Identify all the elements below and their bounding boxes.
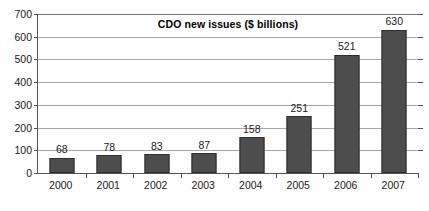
x-axis-tick [371, 173, 372, 178]
bar[interactable] [334, 55, 359, 173]
y-axis-label: 400 [14, 77, 32, 88]
x-axis-tick-end [418, 173, 419, 178]
plot-area: CDO new issues ($ billions) 010020030040… [37, 14, 418, 174]
bar-value-label: 78 [103, 142, 115, 153]
x-axis-label: 2004 [239, 180, 262, 191]
x-axis-tick [228, 173, 229, 178]
bar-slot: 78 [86, 14, 134, 173]
y-axis-label: 500 [14, 54, 32, 65]
bar[interactable] [49, 158, 74, 173]
bar-slot: 251 [276, 14, 324, 173]
y-axis-tick-right [418, 37, 423, 38]
x-axis-tick [86, 173, 87, 178]
y-axis-tick-right [418, 59, 423, 60]
bar[interactable] [287, 116, 312, 173]
y-axis-label: 700 [14, 9, 32, 20]
y-axis-tick-right [418, 82, 423, 83]
y-axis-label: 100 [14, 145, 32, 156]
bar-value-label: 68 [56, 144, 68, 155]
bar[interactable] [382, 30, 407, 173]
x-axis-label: 2006 [334, 180, 357, 191]
y-axis-label: 300 [14, 100, 32, 111]
bar-value-label: 87 [198, 140, 210, 151]
x-axis-label: 2007 [382, 180, 405, 191]
bar-value-label: 251 [290, 103, 308, 114]
y-axis-tick-right [418, 150, 423, 151]
bar-slot: 521 [323, 14, 371, 173]
x-axis-label: 2000 [49, 180, 72, 191]
bar-value-label: 83 [151, 141, 163, 152]
x-axis-tick [276, 173, 277, 178]
bar-value-label: 158 [243, 124, 261, 135]
y-axis-label: 200 [14, 122, 32, 133]
bar-slot: 87 [181, 14, 229, 173]
y-axis-tick [34, 173, 38, 174]
x-axis-label: 2005 [287, 180, 310, 191]
bar[interactable] [144, 154, 169, 173]
bar[interactable] [97, 155, 122, 173]
y-axis-label: 600 [14, 31, 32, 42]
x-axis-tick [181, 173, 182, 178]
x-axis-label: 2002 [144, 180, 167, 191]
x-axis-label: 2003 [192, 180, 215, 191]
bar[interactable] [192, 153, 217, 173]
bar-value-label: 630 [385, 16, 403, 27]
bar-value-label: 521 [338, 41, 356, 52]
y-axis-tick-right [418, 14, 423, 15]
bar-slot: 158 [228, 14, 276, 173]
bar-chart: CDO new issues ($ billions) 010020030040… [0, 0, 429, 211]
x-axis-tick [323, 173, 324, 178]
bar-slot: 68 [38, 14, 86, 173]
x-axis-label: 2001 [97, 180, 120, 191]
y-axis-label: 0 [26, 168, 32, 179]
y-axis-tick-right [418, 105, 423, 106]
y-axis-tick-right [418, 128, 423, 129]
bars-layer: 68788387158251521630 [38, 14, 418, 173]
bar[interactable] [239, 137, 264, 173]
x-axis-tick [133, 173, 134, 178]
x-axis-labels: 20002001200220032004200520062007 [37, 180, 418, 200]
bar-slot: 630 [371, 14, 419, 173]
bar-slot: 83 [133, 14, 181, 173]
